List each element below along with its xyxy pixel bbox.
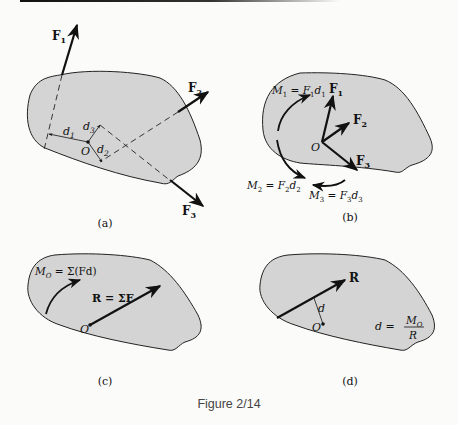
figure-canvas: F1 F2 F3 d1 d3 d2 O (a) F1 F2 F3 O M1 = … xyxy=(0,0,458,425)
label-o-c: O xyxy=(80,323,89,336)
panel-label-c: (c) xyxy=(98,375,113,388)
formula-denominator: R xyxy=(408,329,417,341)
panel-d: R d O d = MO R (d) xyxy=(260,254,435,388)
label-m3: M3 = F3d3 xyxy=(308,189,363,204)
label-f1: F1 xyxy=(52,29,66,45)
label-f2: F2 xyxy=(188,81,202,97)
label-resultant-c: R = ΣF xyxy=(92,292,134,305)
panel-label-b: (b) xyxy=(342,211,358,224)
point-o-d xyxy=(321,322,325,326)
moment-arc-m3 xyxy=(313,180,345,186)
point-o-a xyxy=(86,140,90,144)
panel-c: MO = Σ(Fd) R = ΣF O (c) xyxy=(28,254,201,388)
label-o-d: O xyxy=(312,321,321,334)
rigid-body-a xyxy=(27,71,201,184)
label-o-a: O xyxy=(81,145,90,158)
label-m2: M2 = F2d2 xyxy=(246,179,301,194)
panel-b: F1 F2 F3 O M1 = F1d1 M2 = F2d2 M3 = F3d3… xyxy=(246,73,432,224)
label-f3: F3 xyxy=(182,204,197,220)
label-resultant-d: R xyxy=(349,271,360,285)
panel-label-a: (a) xyxy=(97,217,112,230)
force-vector-f3 xyxy=(170,180,203,206)
formula-lhs: d = xyxy=(375,320,395,333)
figure-caption: Figure 2/14 xyxy=(0,397,458,411)
panel-label-d: (d) xyxy=(342,375,358,388)
force-vector-f1 xyxy=(62,25,77,75)
label-o-b: O xyxy=(311,141,320,154)
panel-a: F1 F2 F3 d1 d3 d2 O (a) xyxy=(27,25,208,230)
label-d: d xyxy=(318,302,325,315)
